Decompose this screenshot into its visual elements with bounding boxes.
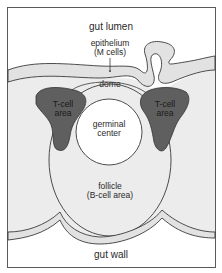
follicle-label: follicle (B-cell area) xyxy=(78,182,142,200)
follicle-line2: (B-cell area) xyxy=(78,191,142,200)
tcell-area-right-label: T-cell area xyxy=(148,100,182,118)
tcell-left-line2: area xyxy=(46,109,80,118)
gut-wall-label: gut wall xyxy=(86,250,136,260)
germinal-line2: center xyxy=(84,129,134,138)
epithelium-label-line2: (M cells) xyxy=(80,48,140,57)
germinal-center-label: germinal center xyxy=(84,120,134,138)
epithelium-label: epithelium (M cells) xyxy=(80,39,140,57)
gut-lumen-label: gut lumen xyxy=(83,22,139,32)
dome-label: dome xyxy=(95,80,125,89)
tcell-area-left-label: T-cell area xyxy=(46,100,80,118)
tcell-right-line2: area xyxy=(148,109,182,118)
epithelium-pointer-dot xyxy=(109,70,111,72)
